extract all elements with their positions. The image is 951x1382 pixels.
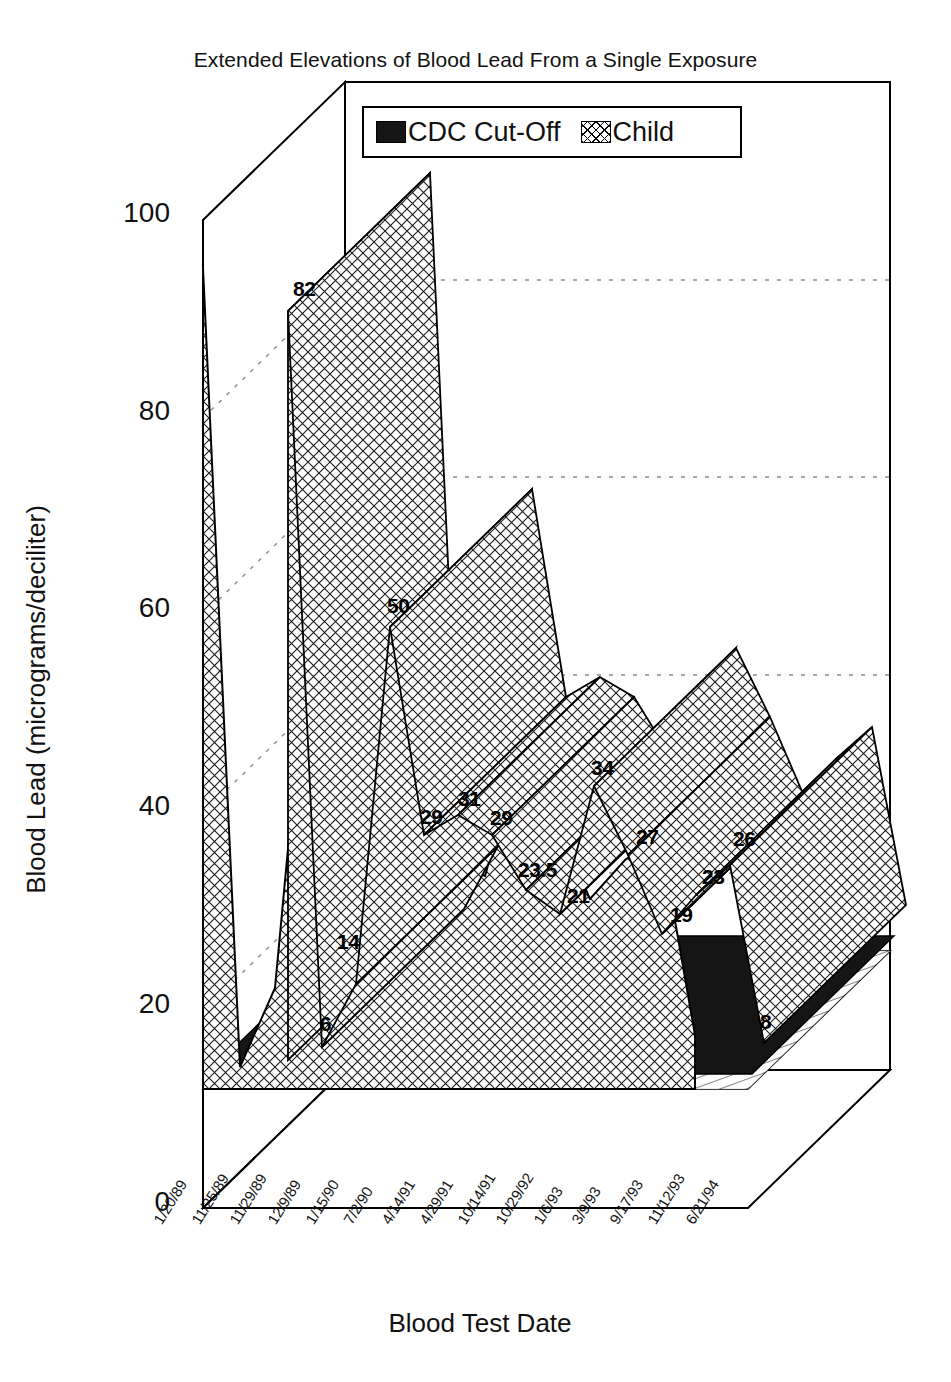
data-label: 23.5	[518, 858, 557, 882]
data-label: 34	[591, 756, 613, 780]
data-label: 26	[733, 827, 755, 851]
data-label: 50	[387, 594, 409, 618]
data-label: 21	[567, 884, 589, 908]
data-label: 8	[760, 1010, 771, 1034]
legend-item-cdc-cutoff: CDC Cut-Off	[376, 117, 561, 148]
data-label: 31	[458, 787, 480, 811]
data-label: 29	[490, 806, 512, 830]
y-tick-40: 40	[86, 790, 170, 822]
data-label: 23	[702, 865, 724, 889]
data-label: 6	[320, 1012, 331, 1036]
y-tick-100: 100	[86, 197, 170, 229]
data-label: 27	[636, 825, 658, 849]
legend-swatch-solid-icon	[376, 121, 406, 143]
chart-legend: CDC Cut-Off Child	[362, 106, 742, 158]
y-tick-20: 20	[86, 988, 170, 1020]
chart-figure: Extended Elevations of Blood Lead From a…	[0, 0, 951, 1382]
legend-label-child: Child	[613, 117, 675, 148]
data-label: 19	[670, 903, 692, 927]
legend-item-child: Child	[581, 117, 675, 148]
data-label: 29	[420, 805, 442, 829]
y-tick-80: 80	[86, 395, 170, 427]
data-label: 14	[337, 930, 359, 954]
data-label: 82	[293, 277, 315, 301]
y-tick-60: 60	[86, 592, 170, 624]
legend-label-cdc-cutoff: CDC Cut-Off	[408, 117, 561, 148]
legend-swatch-hatch-icon	[581, 121, 611, 143]
